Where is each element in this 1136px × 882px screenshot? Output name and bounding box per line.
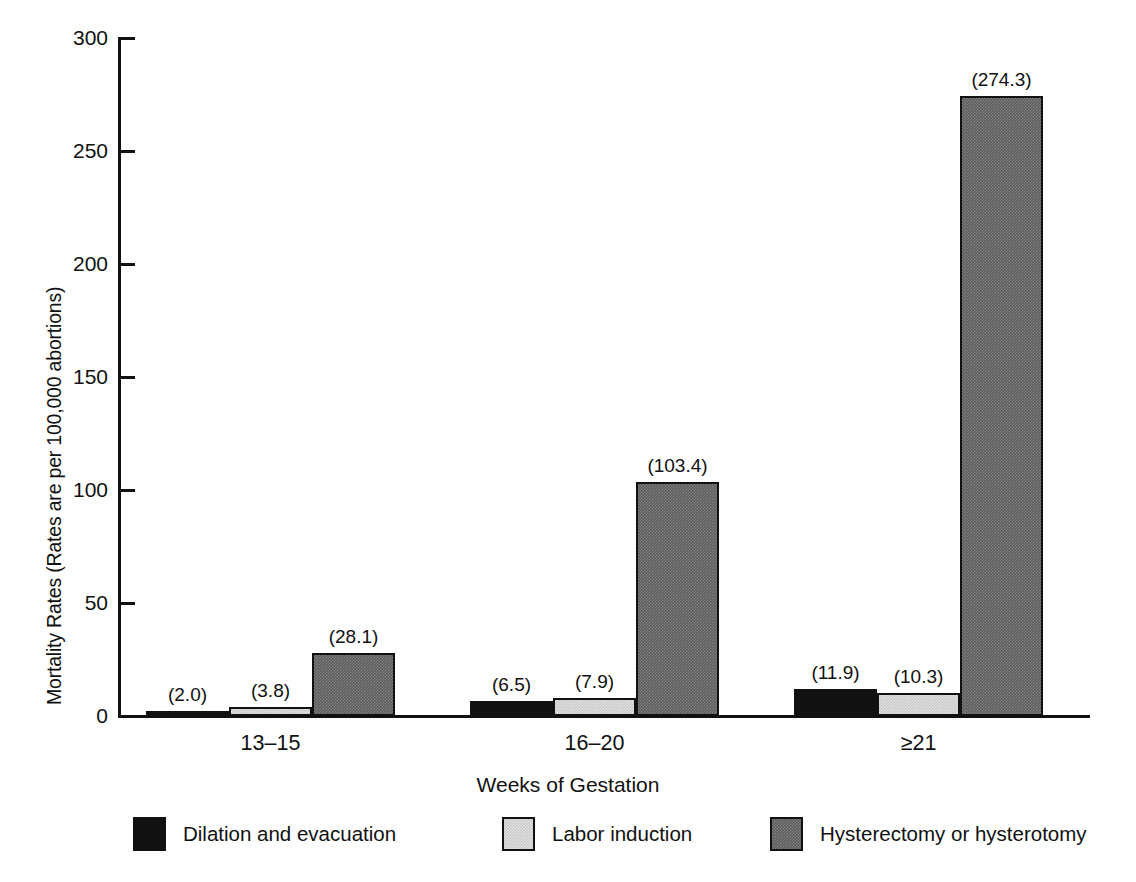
bar-value-label: (274.3) — [940, 70, 1063, 89]
bar-value-label: (103.4) — [616, 456, 739, 475]
legend-item: Hysterectomy or hysterotomy — [770, 814, 1087, 854]
y-tick-label-wrap: 150 — [28, 366, 108, 387]
y-tick-label-wrap: 250 — [28, 140, 108, 161]
x-axis-category-label: ≥21 — [829, 731, 1009, 755]
bar — [553, 698, 636, 716]
y-tick-label-wrap: 200 — [28, 253, 108, 274]
legend-item: Labor induction — [502, 814, 692, 854]
x-axis-category-label: 13–15 — [181, 731, 361, 755]
x-axis-category-label: 16–20 — [505, 731, 685, 755]
bar — [877, 693, 960, 716]
legend-swatch — [133, 817, 166, 851]
y-tick-label: 300 — [34, 27, 108, 48]
y-tick-label: 0 — [34, 705, 108, 726]
y-tick-label: 150 — [34, 366, 108, 387]
y-tick-label-wrap: 300 — [28, 27, 108, 48]
y-tick-label: 50 — [34, 592, 108, 613]
bar — [794, 689, 877, 716]
plot-area: (2.0)(3.8)(28.1)(6.5)(7.9)(103.4)(11.9)(… — [118, 38, 1090, 716]
y-tick-label: 200 — [34, 253, 108, 274]
legend-label: Dilation and evacuation — [183, 823, 396, 845]
y-tick-label-wrap: 50 — [28, 592, 108, 613]
bar — [470, 701, 553, 716]
legend-item: Dilation and evacuation — [133, 814, 396, 854]
y-tick-label-wrap: 100 — [28, 479, 108, 500]
legend-swatch — [770, 817, 803, 851]
legend-swatch — [502, 817, 535, 851]
chart-legend: Dilation and evacuationLabor inductionHy… — [0, 814, 1136, 860]
x-axis-title: Weeks of Gestation — [0, 773, 1136, 797]
bar — [960, 96, 1043, 716]
legend-label: Labor induction — [552, 823, 692, 845]
legend-label: Hysterectomy or hysterotomy — [820, 823, 1087, 845]
bar-value-label: (28.1) — [292, 627, 415, 646]
bar — [229, 707, 312, 716]
bar — [312, 653, 395, 717]
bar — [636, 482, 719, 716]
y-tick-label-wrap: 0 — [28, 705, 108, 726]
bar — [146, 711, 229, 716]
chart-figure: Mortality Rates (Rates are per 100,000 a… — [0, 0, 1136, 882]
y-tick-label: 100 — [34, 479, 108, 500]
y-tick-label: 250 — [34, 140, 108, 161]
